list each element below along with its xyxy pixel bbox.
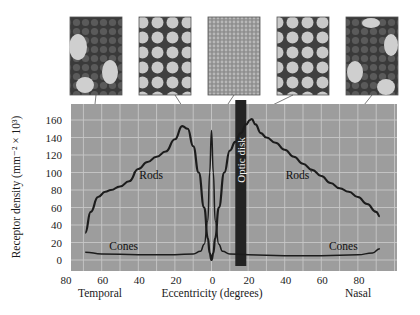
x-tick-label: 80 <box>353 274 365 286</box>
x-tick-label: 60 <box>97 274 109 286</box>
y-tick-label: 120 <box>46 149 63 161</box>
y-tick-label: 0 <box>57 254 63 266</box>
inset-temporal-periphery-mosaic <box>69 17 122 95</box>
nasal-label: Nasal <box>345 287 371 299</box>
y-tick-label: 40 <box>51 219 63 231</box>
y-axis-ticks: 020406080100120140160 <box>46 114 63 266</box>
y-tick-label: 60 <box>51 202 63 214</box>
curve-label-rods: Rods <box>286 169 310 181</box>
x-tick-label: 40 <box>134 274 146 286</box>
inset-temporal-parafovea-mosaic <box>139 17 191 95</box>
y-tick-label: 100 <box>46 167 63 179</box>
curve-label-cones: Cones <box>109 240 138 252</box>
y-axis-label: Receptor density (mm⁻² × 10³) <box>10 115 23 258</box>
curve-label-rods: Rods <box>139 169 163 181</box>
receptor-density-figure: Optic disk RodsRodsConesCones 0204060801… <box>0 0 420 315</box>
x-tick-label: 20 <box>244 274 256 286</box>
inset-fovea-cone-mosaic <box>208 17 260 95</box>
mosaic-insets <box>69 17 398 95</box>
x-tick-label: 20 <box>170 274 182 286</box>
temporal-label: Temporal <box>78 287 122 300</box>
x-tick-label: 0 <box>210 274 216 286</box>
y-tick-label: 140 <box>46 132 63 144</box>
x-tick-label: 40 <box>280 274 292 286</box>
inset-nasal-parafovea-mosaic <box>277 17 329 95</box>
inset-nasal-periphery-mosaic <box>346 17 398 95</box>
y-tick-label: 80 <box>51 184 63 196</box>
x-tick-label: 80 <box>61 274 73 286</box>
x-tick-label: 60 <box>317 274 329 286</box>
curve-label-cones: Cones <box>329 240 358 252</box>
optic-disk-label: Optic disk <box>235 137 247 183</box>
x-axis-ticks: 80604020020406080 <box>61 274 365 286</box>
y-tick-label: 160 <box>46 114 63 126</box>
x-axis-label: Eccentricity (degrees) <box>161 287 262 300</box>
y-tick-label: 20 <box>51 237 63 249</box>
